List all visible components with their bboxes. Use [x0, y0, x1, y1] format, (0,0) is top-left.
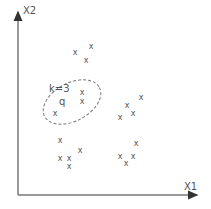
data-point: x: [58, 155, 63, 163]
k-neighborhood-ellipse: [36, 71, 109, 134]
y-axis-label: X2: [23, 6, 36, 16]
data-point: x: [131, 110, 136, 118]
data-point: x: [67, 163, 72, 171]
data-point: x: [89, 43, 94, 51]
data-point: x: [53, 110, 58, 118]
data-point: x: [80, 89, 85, 97]
data-point: x: [124, 160, 129, 168]
data-point: x: [118, 153, 123, 161]
data-point: x: [139, 94, 144, 102]
data-point: x: [80, 98, 85, 106]
x-axis-label: X1: [184, 182, 197, 192]
query-point-label: q: [59, 97, 65, 107]
data-point: x: [131, 153, 136, 161]
k-label: k=3: [49, 84, 70, 94]
data-point: x: [58, 137, 63, 145]
data-point: x: [73, 49, 78, 57]
data-point: x: [84, 57, 89, 65]
data-point: x: [78, 147, 83, 155]
axes-and-neighborhood: [0, 0, 211, 209]
knn-diagram: X2 X1 k=3 q xxxxxxxxxxxxxxxxxxx: [0, 0, 211, 209]
data-point: x: [134, 140, 139, 148]
data-point: x: [118, 114, 123, 122]
data-point: x: [125, 102, 130, 110]
